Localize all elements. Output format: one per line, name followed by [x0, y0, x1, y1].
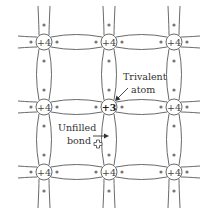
atom-charge-label: +4: [167, 102, 181, 113]
unfilled-label-line2: bond: [67, 135, 91, 146]
electron-dot: [107, 59, 110, 62]
electron-dot: [107, 153, 110, 156]
trivalent-atom: +3: [101, 99, 117, 115]
electron-dot: [29, 170, 32, 173]
electron-dot: [42, 23, 45, 26]
electron-dot: [55, 170, 58, 173]
silicon-atom: +4: [166, 99, 182, 115]
electron-dot: [94, 105, 97, 108]
electron-dot: [172, 88, 175, 91]
crystal-lattice-diagram: +4+4+4+4+3+4+4+4+4 Trivalent atom Unfill…: [0, 0, 215, 215]
silicon-atom: +4: [101, 34, 117, 50]
silicon-atom: +4: [101, 164, 117, 180]
electron-dot: [159, 170, 162, 173]
unfilled-arrowhead-icon: [104, 134, 109, 139]
atom-charge-label: +3: [102, 102, 117, 113]
electron-dot: [29, 40, 32, 43]
electron-dot: [172, 189, 175, 192]
electron-dot: [172, 124, 175, 127]
atom-charge-label: +4: [37, 102, 51, 113]
electron-dot: [107, 88, 110, 91]
trivalent-arrow: [117, 88, 128, 99]
electron-dot: [94, 170, 97, 173]
electron-dot: [185, 105, 188, 108]
electron-dot: [94, 40, 97, 43]
electron-dot: [42, 153, 45, 156]
hole-plus-icon: [94, 140, 102, 148]
atom-charge-label: +4: [167, 167, 181, 178]
silicon-atom: +4: [166, 34, 182, 50]
trivalent-atom-annotation: Trivalent atom: [115, 71, 167, 101]
electron-dot: [42, 189, 45, 192]
atom-charge-label: +4: [102, 167, 116, 178]
silicon-atom: +4: [166, 164, 182, 180]
electron-dot: [185, 170, 188, 173]
electron-dot: [120, 105, 123, 108]
atom-charge-label: +4: [37, 37, 51, 48]
electron-dot: [159, 40, 162, 43]
electron-dot: [29, 105, 32, 108]
electron-dot: [172, 59, 175, 62]
electron-dot: [42, 124, 45, 127]
electron-dot: [55, 105, 58, 108]
silicon-atom: +4: [36, 34, 52, 50]
atom-charge-label: +4: [37, 167, 51, 178]
electron-dot: [120, 170, 123, 173]
electron-dot: [172, 153, 175, 156]
electron-dot: [42, 59, 45, 62]
electron-dot: [107, 23, 110, 26]
atom-charge-label: +4: [167, 37, 181, 48]
trivalent-label-line1: Trivalent: [123, 71, 167, 82]
trivalent-label-line2: atom: [131, 84, 155, 95]
electron-dot: [42, 88, 45, 91]
electron-dot: [55, 40, 58, 43]
atom-charge-label: +4: [102, 37, 116, 48]
silicon-atom: +4: [36, 164, 52, 180]
electron-dot: [159, 105, 162, 108]
unfilled-label-line1: Unfilled: [58, 122, 96, 133]
electron-dot: [172, 23, 175, 26]
silicon-atom: +4: [36, 99, 52, 115]
electron-dot: [107, 189, 110, 192]
electron-dot: [120, 40, 123, 43]
electron-dot: [185, 40, 188, 43]
